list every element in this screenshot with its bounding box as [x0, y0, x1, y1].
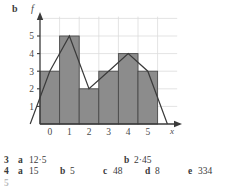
svg-text:2: 2: [87, 127, 92, 137]
answer-line-4-part-c-key: c: [103, 166, 107, 176]
svg-text:5: 5: [29, 31, 34, 41]
answer-line-3-part-b-key: b: [124, 155, 129, 165]
answer-line-3-part-a-key: a: [18, 155, 23, 165]
answer-line-4-part-a-key: a: [18, 166, 23, 176]
answer-line-4-part-b-value: 5: [70, 166, 75, 176]
svg-text:2: 2: [29, 84, 34, 94]
answer-line-4-part-d-key: d: [145, 166, 150, 176]
answer-line-3-part-b-value: 2·45: [134, 155, 151, 165]
answer-line-3-number: 3: [4, 155, 9, 165]
answer-line-4-part-e-value: 334: [198, 166, 212, 176]
frequency-polygon-figure: b f x 12345012345: [0, 0, 227, 150]
answer-line-4-part-c-value: 48: [113, 166, 123, 176]
svg-text:4: 4: [126, 127, 131, 137]
answer-line-4-number: 4: [4, 166, 9, 176]
svg-text:3: 3: [29, 67, 34, 77]
answer-line-4-part-b-key: b: [60, 166, 65, 176]
svg-text:3: 3: [106, 127, 111, 137]
answer-line-5-clipped: 5: [0, 178, 227, 186]
svg-text:1: 1: [29, 102, 34, 112]
answer-line-5-content: 5: [0, 178, 227, 186]
histogram-plot: 12345012345: [0, 0, 227, 150]
answer-line-3-part-a-value: 12·5: [29, 155, 46, 165]
answer-line-5-number: 5: [4, 178, 9, 186]
answer-line-4-part-d-value: 8: [155, 166, 160, 176]
svg-text:0: 0: [47, 127, 52, 137]
svg-text:5: 5: [145, 127, 150, 137]
answer-line-4: 4 a 15 b 5 c 48 d 8 e 334: [0, 166, 227, 178]
svg-text:4: 4: [29, 49, 34, 59]
svg-text:1: 1: [67, 127, 72, 137]
answer-line-4-part-e-key: e: [188, 166, 192, 176]
answer-line-4-part-a-value: 15: [29, 166, 39, 176]
